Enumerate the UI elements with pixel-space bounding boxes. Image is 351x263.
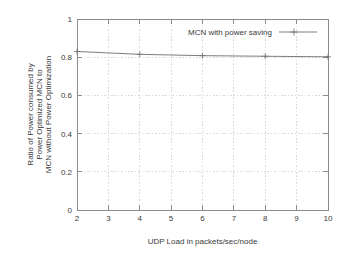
x-tick-label: 7 bbox=[232, 214, 237, 223]
legend-entry-label: MCN with power saving bbox=[188, 28, 272, 37]
y-axis-title-line-3: MCN without Power Optimization bbox=[44, 56, 53, 173]
y-axis-title: Ratio of Power consumed by Power Optimiz… bbox=[26, 56, 53, 173]
x-tick-label: 6 bbox=[200, 214, 205, 223]
x-tick-label: 5 bbox=[169, 214, 174, 223]
x-tick-label: 4 bbox=[138, 214, 143, 223]
x-tick-label: 9 bbox=[294, 214, 299, 223]
y-tick-label: 0 bbox=[68, 206, 73, 215]
chart-legend: MCN with power saving bbox=[188, 28, 317, 37]
x-tick-labels: 2 3 4 5 6 7 8 9 10 bbox=[75, 214, 333, 223]
chart-figure: 0 0.2 0.4 0.6 0.8 1 2 3 4 5 6 7 8 9 10 U… bbox=[0, 0, 351, 263]
y-tick-label: 0.6 bbox=[61, 91, 73, 100]
x-tick-label: 3 bbox=[106, 214, 111, 223]
y-tick-label: 1 bbox=[68, 15, 73, 24]
y-tick-label: 0.8 bbox=[61, 53, 73, 62]
vertical-gridlines bbox=[77, 19, 328, 210]
x-tick-label: 8 bbox=[263, 214, 268, 223]
y-tick-label: 0.4 bbox=[61, 130, 73, 139]
y-tick-label: 0.2 bbox=[61, 168, 73, 177]
y-tick-labels: 0 0.2 0.4 0.6 0.8 1 bbox=[61, 15, 73, 215]
y-axis-title-line-1: Ratio of Power consumed by bbox=[26, 63, 35, 165]
x-tick-label: 10 bbox=[324, 214, 333, 223]
x-axis-title: UDP Load in packets/sec/node bbox=[148, 237, 258, 246]
y-axis-title-line-2: Power Optimized MCN to bbox=[35, 69, 44, 160]
line-chart: 0 0.2 0.4 0.6 0.8 1 2 3 4 5 6 7 8 9 10 U… bbox=[0, 0, 351, 263]
x-tick-label: 2 bbox=[75, 214, 80, 223]
